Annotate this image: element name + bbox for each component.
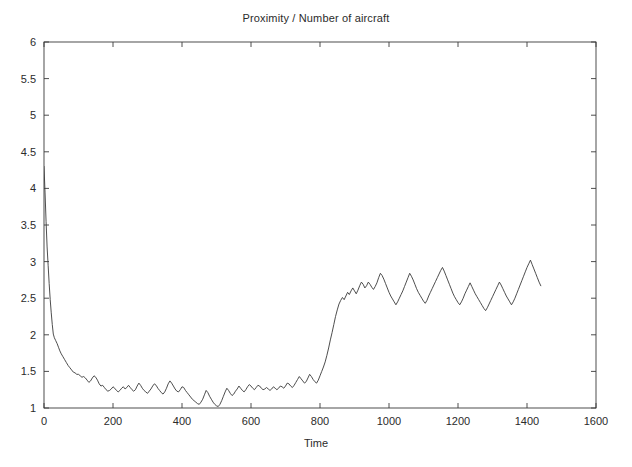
svg-text:1200: 1200 (446, 415, 470, 427)
svg-text:1000: 1000 (377, 415, 401, 427)
y-axis-tick-labels: 11.522.533.544.555.56 (21, 36, 36, 414)
data-series-line (44, 166, 541, 406)
svg-text:3: 3 (30, 256, 36, 268)
x-axis-tick-labels: 02004006008001000120014001600 (41, 415, 608, 427)
svg-text:6: 6 (30, 36, 36, 48)
svg-text:2: 2 (30, 329, 36, 341)
svg-text:2.5: 2.5 (21, 292, 36, 304)
chart-container: Proximity / Number of aircraft 11.522.53… (0, 0, 632, 467)
axes-frame (44, 42, 596, 408)
x-axis-label: Time (0, 437, 632, 449)
svg-text:1.5: 1.5 (21, 365, 36, 377)
svg-text:1600: 1600 (584, 415, 608, 427)
svg-text:800: 800 (311, 415, 329, 427)
svg-text:5: 5 (30, 109, 36, 121)
svg-text:600: 600 (242, 415, 260, 427)
svg-text:200: 200 (104, 415, 122, 427)
svg-text:4: 4 (30, 182, 36, 194)
svg-text:3.5: 3.5 (21, 219, 36, 231)
svg-text:0: 0 (41, 415, 47, 427)
svg-text:5.5: 5.5 (21, 73, 36, 85)
svg-text:4.5: 4.5 (21, 146, 36, 158)
svg-text:400: 400 (173, 415, 191, 427)
axis-ticks (44, 42, 596, 408)
svg-text:1: 1 (30, 402, 36, 414)
chart-plot-area: 11.522.533.544.555.56 020040060080010001… (0, 0, 632, 467)
svg-text:1400: 1400 (515, 415, 539, 427)
